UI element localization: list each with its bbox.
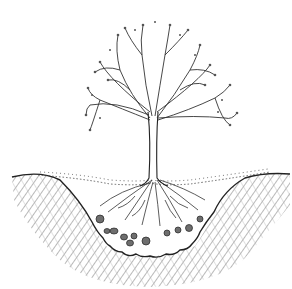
- tree-trunk: [140, 112, 168, 186]
- root-system: [100, 180, 205, 226]
- pit-stones: [96, 215, 203, 246]
- tree-canopy: [86, 25, 237, 130]
- mulch-layer: [38, 169, 270, 185]
- tree-planting-illustration: [0, 0, 292, 289]
